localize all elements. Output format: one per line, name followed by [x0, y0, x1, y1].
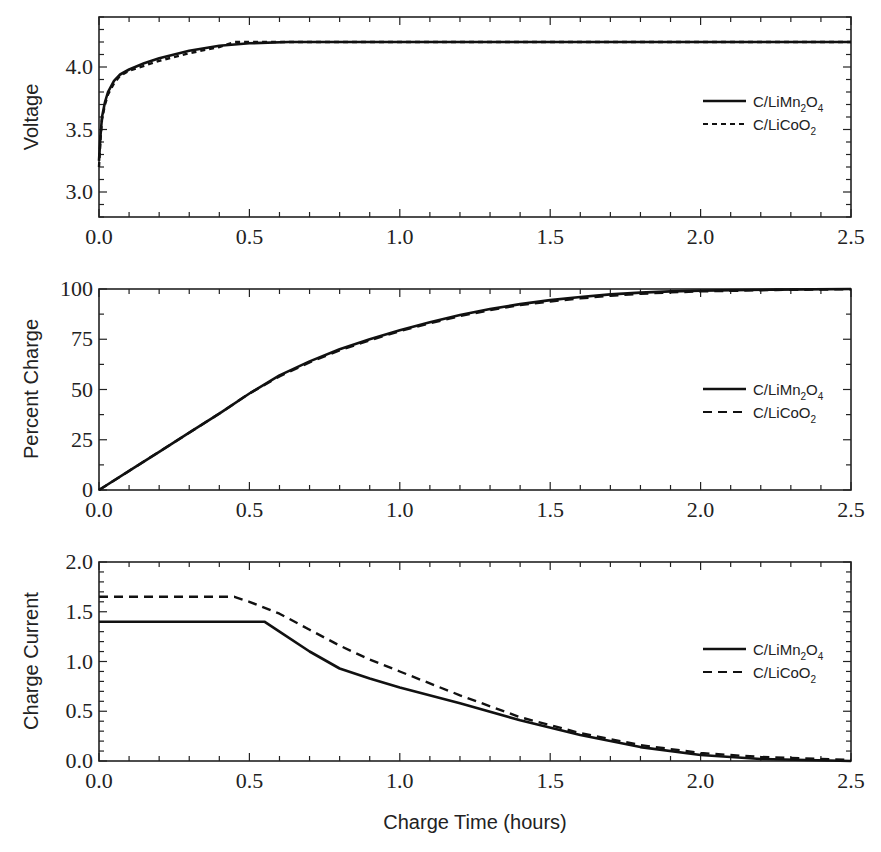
legend: C/LiMn2O4C/LiCoO2 [703, 641, 824, 685]
x-tick-label: 1.5 [536, 224, 564, 249]
voltage-panel: 0.00.51.01.52.02.53.03.54.0C/LiMn2O4C/Li… [66, 17, 865, 249]
charge-current-axis-label: Charge Current [20, 592, 42, 730]
x-tick-label: 1.0 [386, 768, 414, 793]
voltage-axis-label: Voltage [20, 84, 42, 151]
y-tick-label: 25 [71, 427, 93, 452]
y-tick-label: 3.0 [66, 179, 94, 204]
legend-label-licoo2: C/LiCoO2 [753, 404, 817, 425]
x-tick-label: 2.0 [687, 224, 715, 249]
charge-current-panel: 0.00.51.01.52.02.50.00.51.01.52.0C/LiMn2… [66, 549, 865, 793]
charge-profile-figure: 0.00.51.01.52.02.53.03.54.0C/LiMn2O4C/Li… [0, 0, 881, 852]
legend-label-limn2o4: C/LiMn2O4 [753, 381, 824, 402]
plot-frame [99, 562, 851, 761]
y-tick-label: 3.5 [66, 117, 94, 142]
x-tick-label: 0.5 [236, 497, 264, 522]
legend-label-limn2o4: C/LiMn2O4 [753, 641, 824, 662]
series-line-licoo2 [99, 42, 851, 167]
x-tick-label: 1.0 [386, 224, 414, 249]
legend-label-licoo2: C/LiCoO2 [753, 116, 817, 137]
y-tick-label: 1.0 [66, 649, 94, 674]
y-tick-label: 100 [60, 276, 93, 301]
legend: C/LiMn2O4C/LiCoO2 [703, 93, 824, 137]
y-tick-label: 0.0 [66, 748, 94, 773]
x-tick-label: 1.0 [386, 497, 414, 522]
y-tick-label: 0 [82, 477, 93, 502]
x-tick-label: 0.5 [236, 768, 264, 793]
y-tick-label: 1.5 [66, 599, 94, 624]
x-tick-label: 2.0 [687, 497, 715, 522]
x-tick-label: 1.5 [536, 768, 564, 793]
legend: C/LiMn2O4C/LiCoO2 [703, 381, 824, 425]
y-tick-label: 0.5 [66, 698, 94, 723]
x-tick-label: 2.5 [837, 497, 865, 522]
y-tick-label: 2.0 [66, 549, 94, 574]
x-tick-label: 0.5 [236, 224, 264, 249]
y-tick-label: 75 [71, 326, 93, 351]
y-tick-label: 50 [71, 377, 93, 402]
y-tick-label: 4.0 [66, 54, 94, 79]
legend-label-licoo2: C/LiCoO2 [753, 664, 817, 685]
percent-charge-axis-label: Percent Charge [20, 319, 42, 459]
percent-charge-panel: 0.00.51.01.52.02.50255075100C/LiMn2O4C/L… [60, 276, 865, 522]
x-axis-label: Charge Time (hours) [383, 811, 566, 833]
x-tick-label: 1.5 [536, 497, 564, 522]
legend-label-limn2o4: C/LiMn2O4 [753, 93, 824, 114]
x-tick-label: 0.0 [85, 224, 113, 249]
x-tick-label: 2.5 [837, 768, 865, 793]
x-tick-label: 2.5 [837, 224, 865, 249]
x-tick-label: 2.0 [687, 768, 715, 793]
series-line-limn2o4 [99, 622, 851, 761]
